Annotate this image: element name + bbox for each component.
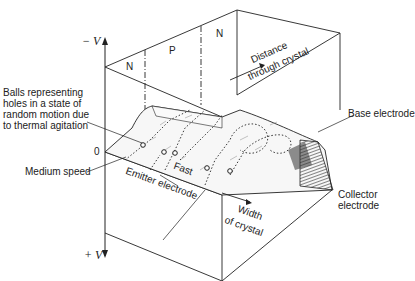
base-electrode-label: Base electrode bbox=[348, 108, 415, 119]
balls-label-1: Balls representing bbox=[3, 87, 83, 98]
arrow-down-icon bbox=[102, 250, 108, 258]
potential-surface bbox=[105, 106, 333, 195]
region-n-left: N bbox=[126, 61, 133, 72]
balls-label-2: holes in a state of bbox=[3, 98, 81, 109]
region-n-right: N bbox=[216, 28, 223, 39]
arrow-up-icon bbox=[102, 37, 108, 45]
plus-v-label: + V bbox=[84, 250, 102, 261]
balls-label-3: random motion due bbox=[3, 109, 89, 120]
balls-label-4: to thermal agitation bbox=[3, 120, 88, 131]
voltage-axis bbox=[102, 37, 108, 258]
zero-label: 0 bbox=[94, 146, 100, 157]
medium-speed-label: Medium speed bbox=[25, 166, 91, 177]
region-p: P bbox=[169, 45, 176, 56]
minus-v-label: − V bbox=[82, 36, 100, 47]
collector-label-1: Collector bbox=[338, 189, 377, 200]
width-arrow bbox=[222, 193, 252, 205]
collector-label-2: electrode bbox=[338, 200, 379, 211]
